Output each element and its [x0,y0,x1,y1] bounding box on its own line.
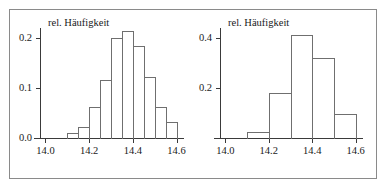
y-tick-label-left-1: 0.1 [6,83,32,94]
x-tick-label-right-1: 14.2 [249,146,289,157]
y-axis-left [40,28,41,139]
y-tick-left-1 [36,88,40,89]
y-tick-label-left-2: 0.2 [6,33,32,44]
x-tick-label-left-0: 14.0 [25,146,65,157]
histogram-bar [166,122,178,139]
x-tick-right-2 [312,139,313,143]
histogram-bar [312,58,335,139]
chart-panel-right: rel. Häufigkeit 0.20.4 14.014.214.414.6 [193,0,386,188]
histogram-bar [334,114,357,139]
x-tick-label-right-3: 14.6 [336,146,376,157]
x-tick-left-1 [89,139,90,143]
y-axis-right [220,28,221,139]
x-tick-right-1 [269,139,270,143]
y-tick-label-left-0: 0.0 [6,133,32,144]
y-tick-label-right-0: 0.2 [186,83,212,94]
x-tick-right-3 [356,139,357,143]
histogram-figure: rel. Häufigkeit 0.00.10.2 14.014.214.414… [0,0,386,188]
x-tick-right-0 [225,139,226,143]
histogram-bar [269,93,292,139]
y-tick-left-0 [36,138,40,139]
x-tick-left-0 [45,139,46,143]
axis-title-left: rel. Häufigkeit [48,17,109,28]
x-tick-left-3 [177,139,178,143]
x-tick-label-left-1: 14.2 [69,146,109,157]
axis-title-right: rel. Häufigkeit [228,17,289,28]
histogram-bar [291,35,313,139]
x-tick-label-left-2: 14.4 [113,146,153,157]
chart-panel-left: rel. Häufigkeit 0.00.10.2 14.014.214.414… [0,0,193,188]
x-tick-label-right-0: 14.0 [205,146,245,157]
y-tick-right-0 [216,88,220,89]
y-tick-right-1 [216,38,220,39]
y-tick-left-2 [36,38,40,39]
histogram-bar [247,132,270,139]
x-tick-label-left-3: 14.6 [157,146,197,157]
x-tick-left-2 [133,139,134,143]
y-tick-label-right-1: 0.4 [186,33,212,44]
x-tick-label-right-2: 14.4 [292,146,332,157]
